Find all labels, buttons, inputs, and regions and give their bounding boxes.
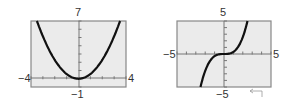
left-ymax-label: 7 [75, 7, 81, 18]
right-xmax-label: 5 [273, 49, 279, 60]
right-graph [177, 21, 271, 87]
left-ymin-label: −1 [71, 89, 84, 100]
graphs-canvas [0, 0, 295, 109]
right-ymax-label: 5 [220, 7, 226, 18]
right-xmin-label: −5 [163, 49, 176, 60]
left-xmin-label: −4 [18, 73, 31, 84]
right-ymin-label: −5 [216, 89, 229, 100]
left-xmax-label: 4 [128, 73, 134, 84]
left-graph [31, 21, 126, 87]
